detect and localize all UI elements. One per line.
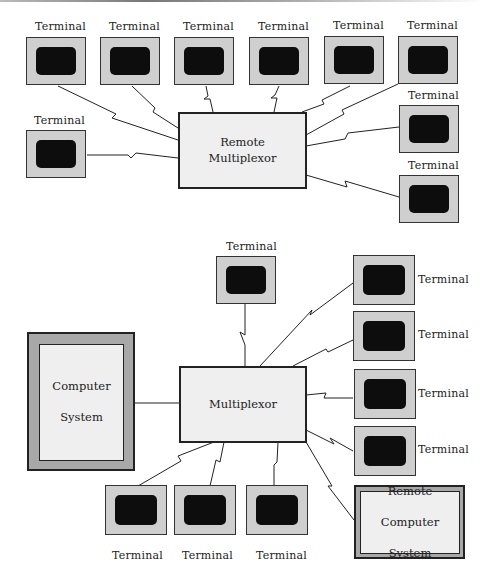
link-t3 — [204, 86, 213, 112]
computer-system-label-2: System — [52, 410, 110, 426]
terminal-label: Terminal — [333, 19, 384, 32]
terminal-top-4 — [249, 37, 309, 85]
terminal-label: Terminal — [182, 549, 233, 562]
terminal-screen — [334, 46, 374, 74]
terminal-label: Terminal — [408, 159, 459, 172]
terminal-screen — [364, 436, 406, 466]
terminal-bottom-2 — [174, 485, 236, 535]
terminal-top-2 — [100, 37, 160, 85]
remote-computer-system-label-3: System — [381, 546, 439, 562]
terminal-top-6 — [398, 36, 458, 84]
link-t6 — [306, 84, 398, 135]
terminal-top-left — [26, 130, 86, 178]
link-b-bl3 — [274, 442, 278, 486]
terminal-screen — [364, 379, 406, 409]
terminal-screen — [226, 266, 266, 294]
terminal-screen — [110, 47, 150, 75]
computer-system-panel: Computer System — [39, 344, 124, 461]
terminal-top-5 — [324, 36, 384, 84]
link-t8 — [306, 175, 399, 197]
terminal-screen — [184, 495, 226, 525]
remote-multiplexor-label-1: Remote — [209, 135, 277, 151]
terminal-screen — [409, 115, 449, 143]
terminal-label: Terminal — [226, 240, 277, 253]
terminal-label: Terminal — [407, 19, 458, 32]
terminal-label: Terminal — [258, 20, 309, 33]
link-b-top — [240, 304, 245, 366]
terminal-top-3 — [174, 37, 234, 85]
terminal-screen — [259, 47, 299, 75]
link-b-bl2 — [210, 442, 224, 486]
terminal-bottom-1 — [105, 485, 167, 535]
terminal-screen — [184, 47, 224, 75]
link-tl — [87, 153, 178, 158]
terminal-screen — [363, 265, 405, 295]
terminal-screen — [36, 47, 76, 75]
link-t7 — [306, 127, 399, 146]
terminal-bottom-3 — [246, 485, 308, 535]
terminal-screen — [363, 321, 405, 351]
link-b-r3 — [306, 393, 353, 398]
terminal-label: Terminal — [418, 273, 469, 286]
terminal-label: Terminal — [34, 114, 85, 127]
link-b-r2 — [293, 340, 353, 366]
terminal-label: Terminal — [418, 443, 469, 456]
remote-multiplexor-label-2: Multiplexor — [209, 151, 277, 167]
terminal-top-right-1 — [399, 105, 459, 153]
terminal-screen — [408, 46, 448, 74]
terminal-screen — [115, 495, 157, 525]
terminal-screen — [36, 140, 76, 168]
remote-computer-system-panel: Remote Computer System — [360, 491, 460, 554]
multiplexor-box: Multiplexor — [179, 366, 307, 443]
link-b-rcs — [306, 442, 354, 520]
link-t5 — [302, 86, 350, 112]
multiplexor-label: Multiplexor — [209, 397, 277, 413]
terminal-label: Terminal — [408, 89, 459, 102]
terminal-screen — [409, 185, 449, 213]
remote-computer-system-label-2: Computer — [381, 515, 439, 531]
terminal-bottom-right-2 — [353, 311, 415, 361]
terminal-top-right-2 — [399, 175, 459, 223]
terminal-label: Terminal — [256, 549, 307, 562]
terminal-bottom-right-1 — [353, 255, 415, 305]
terminal-bottom-right-3 — [354, 369, 416, 419]
remote-multiplexor-box: Remote Multiplexor — [178, 112, 307, 189]
link-b-r4 — [306, 430, 353, 451]
terminal-label: Terminal — [418, 387, 469, 400]
link-b-bl1 — [138, 442, 214, 486]
terminal-screen — [256, 495, 298, 525]
terminal-label: Terminal — [112, 549, 163, 562]
terminal-label: Terminal — [183, 20, 234, 33]
computer-system-label-1: Computer — [52, 379, 110, 395]
terminal-bottom-top — [216, 256, 276, 304]
terminal-label: Terminal — [35, 20, 86, 33]
link-t4 — [271, 86, 279, 112]
link-t2 — [132, 86, 178, 128]
computer-system-box: Computer System — [27, 332, 135, 471]
terminal-label: Terminal — [109, 20, 160, 33]
terminal-top-1 — [26, 37, 86, 85]
remote-computer-system-box: Remote Computer System — [354, 485, 465, 559]
remote-computer-system-label-1: Remote — [381, 484, 439, 500]
terminal-label: Terminal — [418, 328, 469, 341]
